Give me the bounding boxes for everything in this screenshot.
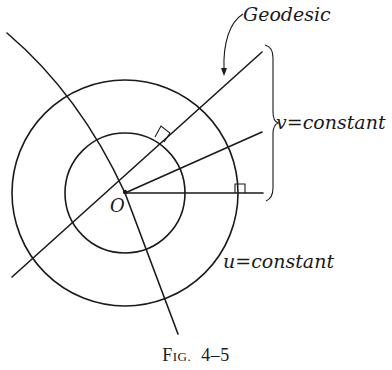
- curved-line-through-origin: [7, 33, 178, 334]
- geodesic-label: Geodesic: [243, 5, 331, 24]
- v-constant-label: v=constant: [276, 113, 386, 132]
- figure-caption: FIG. 4–5: [0, 345, 392, 366]
- right-angle-marker-lower: [235, 184, 245, 193]
- caption-number: 4–5: [201, 345, 230, 365]
- caption-prefix-big: F: [162, 345, 173, 365]
- origin-point: [123, 190, 127, 194]
- geodesic-line: [12, 52, 262, 277]
- geodesic-polar-diagram: [0, 0, 392, 370]
- origin-label: O: [110, 197, 125, 215]
- caption-prefix-small: IG.: [173, 349, 191, 364]
- geodesic-pointer-arrow: [224, 14, 243, 70]
- u-constant-label: u=constant: [223, 252, 334, 271]
- right-angle-marker-upper: [155, 126, 170, 142]
- arrowhead-icon: [221, 68, 227, 76]
